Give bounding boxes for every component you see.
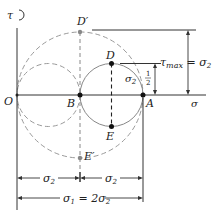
tau-axis-label: τ: [7, 9, 14, 22]
point-e-prime: [78, 156, 82, 160]
sigma2-left-label: σ2: [43, 172, 56, 186]
half-denominator: 2: [146, 79, 150, 87]
sigma1-label: σ1 = 2σ2: [63, 192, 111, 206]
point-b: [78, 93, 83, 98]
label-d: D: [105, 49, 115, 62]
point-o: [16, 94, 19, 97]
label-b: B: [66, 97, 75, 110]
point-d-prime: [78, 30, 82, 34]
rotation-arrow-icon: [19, 10, 24, 20]
sigma-axis-label: σ: [191, 98, 199, 109]
mohr-circle-diagram: τ O σ B A D E D′ E′ τmax = σ2 1 2 σ2 σ2 …: [0, 0, 216, 213]
half-sigma-label: σ2: [125, 73, 137, 86]
label-e-prime: E′: [83, 150, 95, 163]
point-a: [141, 93, 146, 98]
sigma2-right-label: σ2: [105, 172, 118, 186]
point-e: [109, 124, 114, 129]
half-numerator: 1: [146, 70, 150, 78]
tau-max-label: τmax = σ2: [160, 56, 212, 70]
label-e: E: [105, 130, 114, 143]
origin-label: O: [4, 95, 13, 108]
label-d-prime: D′: [76, 15, 89, 28]
label-a: A: [145, 97, 154, 110]
